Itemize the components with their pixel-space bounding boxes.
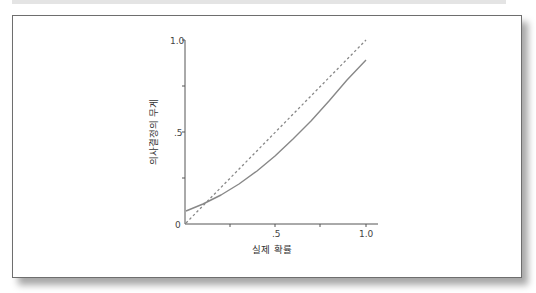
reference-diagonal-line xyxy=(186,40,366,223)
decision-weight-chart: 1.0 .5 0 .5 1.0 실제 확률 의사결정의 무게 xyxy=(0,0,536,293)
decision-weight-curve xyxy=(186,60,366,211)
y-tick-label-0: 0 xyxy=(175,220,181,230)
y-axis-title: 의사결정의 무게 xyxy=(148,99,159,165)
x-tick-label-05: .5 xyxy=(272,229,281,239)
x-axis-title: 실제 확률 xyxy=(252,244,291,255)
y-tick-label-1: 1.0 xyxy=(170,36,185,46)
x-tick-label-1: 1.0 xyxy=(359,229,374,239)
y-tick-label-05: .5 xyxy=(174,128,183,138)
